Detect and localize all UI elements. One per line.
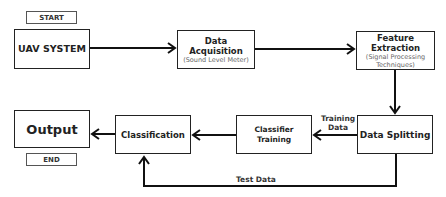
data-acquisition-sub: (Sound Level Meter): [183, 56, 249, 64]
output-label: Output: [26, 122, 77, 137]
training-data-line2: Data: [318, 123, 358, 132]
feature-extraction-sub2: Techniques): [376, 61, 415, 69]
feature-extraction-label: Feature Extraction: [357, 33, 434, 53]
uav-system-node: UAV SYSTEM: [14, 29, 90, 69]
data-acquisition-node: Data Acquisition (Sound Level Meter): [177, 30, 255, 69]
classification-node: Classification: [115, 115, 191, 154]
training-data-label: Training Data: [318, 114, 358, 132]
data-acquisition-label: Data Acquisition: [178, 36, 254, 56]
feature-extraction-node: Feature Extraction (Signal Processing Te…: [356, 31, 435, 70]
data-splitting-label: Data Splitting: [360, 130, 431, 140]
end-terminal: END: [26, 153, 77, 166]
classifier-training-node: Classifier Training: [236, 115, 312, 154]
data-splitting-node: Data Splitting: [357, 115, 433, 154]
start-terminal: START: [26, 11, 77, 24]
uav-system-label: UAV SYSTEM: [18, 44, 86, 54]
output-node: Output: [14, 110, 90, 148]
training-data-line1: Training: [318, 114, 358, 123]
test-data-label: Test Data: [236, 175, 276, 184]
classification-label: Classification: [121, 130, 185, 140]
classifier-training-label: Classifier Training: [237, 125, 311, 145]
feature-extraction-sub1: (Signal Processing: [366, 53, 425, 61]
